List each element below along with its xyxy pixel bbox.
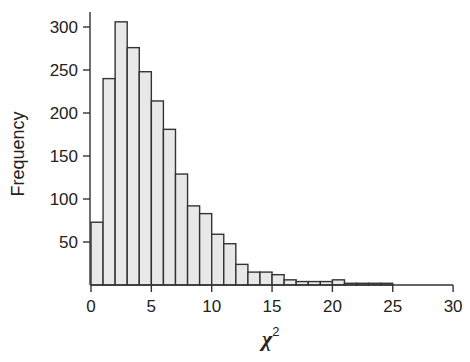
histogram-bar (236, 264, 248, 285)
x-tick-label: 15 (263, 297, 282, 316)
y-tick-label: 200 (50, 104, 78, 123)
histogram-bar (163, 129, 175, 285)
histogram-bar (332, 280, 344, 285)
histogram-bar (200, 214, 212, 285)
y-tick-label: 300 (50, 18, 78, 37)
histogram-bar (248, 272, 260, 285)
x-axis-title: χ2 (259, 324, 279, 351)
x-tick-label: 5 (147, 297, 156, 316)
histogram-bar (115, 22, 127, 285)
y-axis-title: Frequency (8, 111, 28, 196)
histogram-bar (212, 234, 224, 285)
x-axis-title-superscript: 2 (272, 324, 279, 339)
histogram-chart: 05101520253050100150200250300 Frequency … (0, 0, 470, 362)
x-tick-label: 25 (383, 297, 402, 316)
histogram-bar (224, 244, 236, 285)
x-tick-label: 30 (444, 297, 463, 316)
y-tick-label: 250 (50, 61, 78, 80)
histogram-bar (91, 222, 103, 285)
histogram-bar (127, 48, 139, 285)
histogram-bar (139, 72, 151, 285)
histogram-bar (272, 275, 284, 285)
y-tick-label: 150 (50, 147, 78, 166)
x-axis-title-chi: χ (259, 326, 273, 351)
histogram-bar (284, 280, 296, 285)
histogram-bar (188, 206, 200, 285)
x-tick-label: 10 (202, 297, 221, 316)
histogram-bar (103, 79, 115, 285)
histogram-bars (91, 22, 393, 285)
histogram-bar (151, 101, 163, 285)
histogram-bar (260, 272, 272, 285)
y-tick-label: 100 (50, 190, 78, 209)
x-tick-label: 20 (323, 297, 342, 316)
histogram-bar (175, 174, 187, 285)
x-tick-label: 0 (86, 297, 95, 316)
y-tick-label: 50 (59, 233, 78, 252)
